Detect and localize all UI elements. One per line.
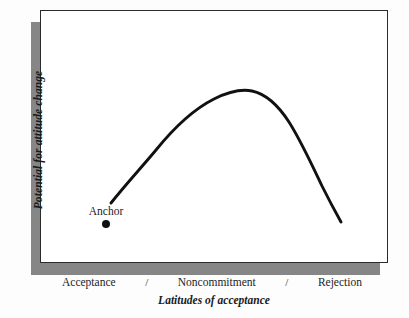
x-tick-rejection: Rejection bbox=[318, 276, 362, 288]
x-tick-separator-1: / bbox=[145, 276, 148, 288]
anchor-annotation: Anchor bbox=[78, 205, 134, 228]
figure-container: Anchor Potential for attitude change Acc… bbox=[0, 0, 409, 318]
y-axis-title: Potential for attitude change bbox=[32, 40, 44, 240]
x-tick-acceptance: Acceptance bbox=[62, 276, 116, 288]
x-tick-separator-2: / bbox=[285, 276, 288, 288]
x-axis-title: Latitudes of acceptance bbox=[40, 294, 388, 306]
x-tick-noncommitment: Noncommitment bbox=[178, 276, 256, 288]
x-axis-tick-labels: Acceptance / Noncommitment / Rejection bbox=[62, 276, 362, 288]
anchor-marker-dot bbox=[102, 220, 110, 228]
anchor-label: Anchor bbox=[78, 205, 134, 218]
